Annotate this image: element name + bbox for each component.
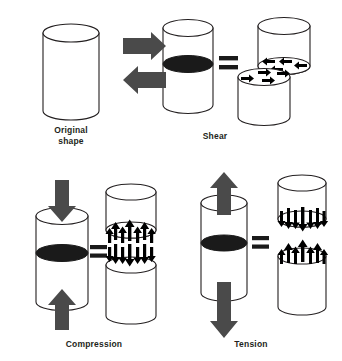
cylinder-top-face <box>258 18 310 35</box>
cylinder-bottom-face <box>106 222 156 238</box>
compression-plane <box>36 245 88 262</box>
tension-load-arrow-up <box>210 172 238 215</box>
shear-equals-sign <box>219 56 238 69</box>
cylinder-top-face <box>278 248 326 264</box>
shear-load-arrow-right <box>123 32 166 60</box>
cylinder-body <box>258 26 310 75</box>
shear-force-arrows-right <box>241 69 290 85</box>
cylinder-body <box>36 216 88 311</box>
tension-force-arrows-down <box>277 207 328 232</box>
compression-force-arrows-up <box>105 220 155 244</box>
cylinder-body <box>278 183 326 227</box>
shear-lower-block <box>238 69 290 126</box>
cylinder-top-face <box>43 24 99 42</box>
tension-force-arrows-up <box>277 240 328 265</box>
label-original-shape: Original shape <box>31 125 111 147</box>
cylinder-top-face <box>201 195 247 211</box>
cylinder-body <box>163 28 213 113</box>
compression-cylinder-group <box>36 208 88 311</box>
cylinder-body <box>201 203 247 301</box>
cylinder-bottom-face <box>258 58 310 75</box>
cylinder-top-face <box>36 208 88 225</box>
shear-plane <box>163 56 213 73</box>
cylinder-top-face <box>163 20 213 37</box>
cylinder-body <box>106 265 156 324</box>
compression-load-arrow-up <box>48 289 76 330</box>
cylinder-top-face <box>278 175 326 191</box>
shear-cylinder-group <box>163 20 213 114</box>
original-shape-cylinder <box>43 24 99 120</box>
tension-lower-block <box>277 240 328 316</box>
cylinder-top-face <box>106 257 156 273</box>
label-tension: Tension <box>215 339 287 350</box>
cylinder-top-face <box>106 184 156 200</box>
shear-force-arrows-left <box>262 58 307 74</box>
tension-cylinder-group <box>201 195 247 301</box>
compression-load-arrow-down <box>48 180 76 222</box>
label-shear: Shear <box>175 131 255 142</box>
tension-upper-block <box>277 175 328 232</box>
shear-upper-block <box>258 18 310 75</box>
compression-force-arrows-down <box>105 244 155 267</box>
cylinder-bottom-face <box>278 211 326 227</box>
cylinder-body <box>238 77 290 126</box>
compression-upper-block <box>105 184 156 243</box>
original-shape-figure <box>0 0 342 361</box>
tension-load-arrow-down <box>210 282 238 338</box>
cylinder-body <box>106 192 156 238</box>
compression-equals-sign <box>90 245 107 258</box>
cylinder-body <box>43 33 99 120</box>
shear-load-arrow-left <box>123 66 166 94</box>
label-compression: Compression <box>40 339 148 350</box>
cylinder-body <box>278 256 326 315</box>
tension-equals-sign <box>252 236 269 249</box>
stress-diagram: Original shape Shear Compression Tension <box>0 0 342 361</box>
cylinder-top-face <box>238 69 290 86</box>
tension-plane <box>201 235 247 251</box>
compression-lower-block <box>105 244 156 324</box>
